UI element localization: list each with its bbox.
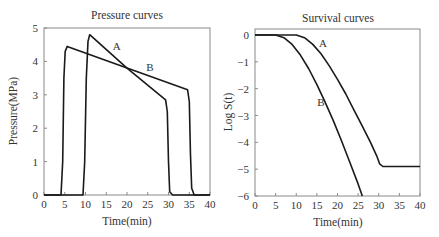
curves <box>44 35 210 195</box>
y-tick-label: 0 <box>244 29 250 41</box>
x-tick-label: 10 <box>80 198 92 210</box>
curve-b <box>255 35 362 196</box>
y-tick-label: −6 <box>237 190 249 202</box>
curve-label: B <box>317 96 324 108</box>
y-axis-label: Pressure(MPa) <box>7 77 20 146</box>
x-tick-label: 30 <box>373 199 385 211</box>
x-tick-label: 0 <box>252 199 258 211</box>
x-tick-label: 20 <box>332 199 344 211</box>
x-tick-label: 40 <box>205 198 217 210</box>
chart-figure: Pressure curves 0510152025303540 012345 … <box>0 0 439 237</box>
curve-label: A <box>113 40 121 52</box>
pressure-chart: Pressure curves 0510152025303540 012345 … <box>7 9 216 228</box>
y-axis-ticks: 012345 <box>33 22 48 201</box>
y-tick-label: 0 <box>33 189 39 201</box>
y-tick-label: −5 <box>237 163 249 175</box>
x-tick-label: 25 <box>353 199 365 211</box>
curve-labels: AB <box>317 37 327 108</box>
curve-a <box>255 35 420 167</box>
curves <box>255 35 420 196</box>
x-tick-label: 40 <box>415 199 427 211</box>
curve-label: B <box>146 61 153 73</box>
x-axis-label: Time(min) <box>102 215 152 228</box>
x-tick-label: 35 <box>184 198 196 210</box>
x-tick-label: 10 <box>291 199 303 211</box>
y-tick-label: −3 <box>237 110 249 122</box>
survival-chart: Survival curves 0510152025303540 0−1−2−3… <box>222 12 426 229</box>
y-axis-label: Log S(t) <box>222 93 235 132</box>
y-tick-label: 2 <box>33 122 39 134</box>
x-tick-label: 5 <box>273 199 279 211</box>
x-axis-label: Time(min) <box>313 216 363 229</box>
x-tick-label: 25 <box>142 198 154 210</box>
y-tick-label: −2 <box>237 83 249 95</box>
curve-b <box>44 46 210 195</box>
curve-labels: AB <box>113 40 154 74</box>
x-tick-label: 0 <box>41 198 47 210</box>
x-tick-label: 15 <box>311 199 323 211</box>
y-tick-label: 3 <box>33 89 39 101</box>
y-tick-label: 4 <box>33 55 39 67</box>
y-tick-label: −1 <box>237 56 249 68</box>
x-tick-label: 35 <box>394 199 406 211</box>
curve-a <box>44 35 210 195</box>
plot-frame <box>44 28 210 195</box>
y-tick-label: 5 <box>33 22 39 34</box>
x-tick-label: 20 <box>122 198 134 210</box>
x-tick-label: 5 <box>62 198 68 210</box>
y-tick-label: −4 <box>237 136 249 148</box>
chart-title: Pressure curves <box>91 9 163 21</box>
plot-frame <box>255 29 420 196</box>
chart-title: Survival curves <box>302 12 374 24</box>
curve-label: A <box>319 37 327 49</box>
y-tick-label: 1 <box>33 156 39 168</box>
x-tick-label: 15 <box>101 198 113 210</box>
x-tick-label: 30 <box>163 198 175 210</box>
